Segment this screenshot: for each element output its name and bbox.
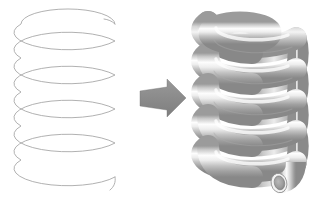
figure-root: Helical curve swept into a solid coil sp… [0,0,312,201]
solid-spring-panel [202,22,298,194]
illustration-canvas [0,0,312,201]
